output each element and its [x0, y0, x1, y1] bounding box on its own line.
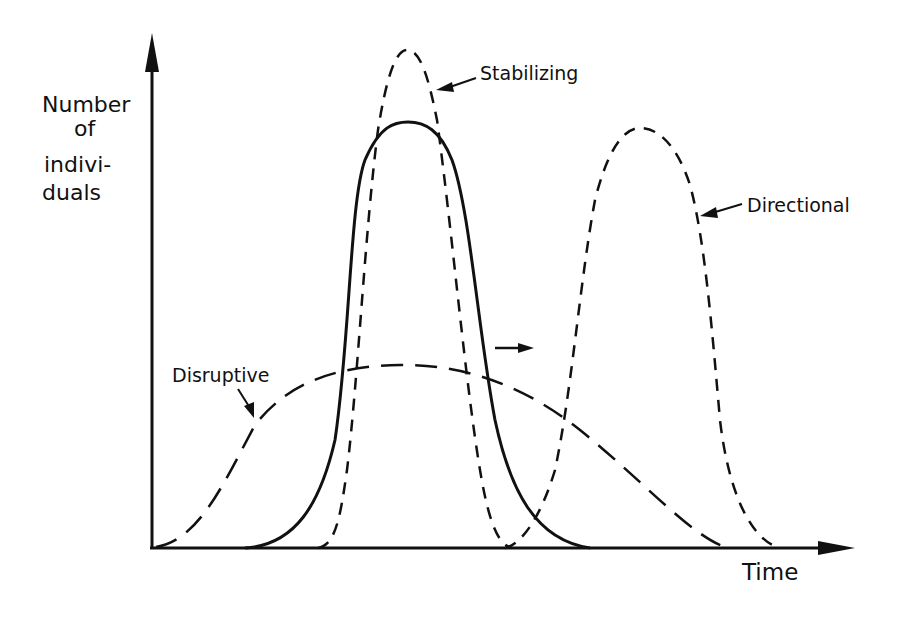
x-axis-label: Time — [741, 559, 798, 585]
right-arrow-icon — [518, 343, 534, 353]
original-population-curve — [245, 122, 590, 548]
stabilizing-annotation: Stabilizing — [436, 62, 578, 92]
svg-text:Disruptive: Disruptive — [172, 364, 269, 386]
svg-text:indivi-: indivi- — [44, 152, 111, 177]
svg-text:Directional: Directional — [747, 194, 850, 216]
selection-types-diagram: Number of indivi- duals Time Stabilizing… — [0, 0, 905, 618]
svg-text:duals: duals — [42, 180, 101, 205]
svg-text:Stabilizing: Stabilizing — [480, 62, 578, 84]
y-axis — [145, 33, 159, 548]
y-axis-label: Number of indivi- duals — [42, 92, 131, 205]
y-axis-arrow-icon — [145, 33, 159, 72]
svg-text:Number: Number — [42, 92, 131, 117]
shift-direction-arrow — [495, 343, 534, 353]
pointer-arrow-icon — [700, 207, 718, 218]
disruptive-annotation: Disruptive — [172, 364, 269, 418]
svg-text:of: of — [74, 116, 96, 141]
pointer-arrow-icon — [436, 82, 454, 92]
directional-annotation: Directional — [700, 194, 850, 218]
pointer-arrow-icon — [244, 402, 254, 418]
directional-curve — [505, 128, 780, 548]
x-axis-arrow-icon — [818, 541, 855, 555]
disruptive-curve — [156, 365, 725, 547]
